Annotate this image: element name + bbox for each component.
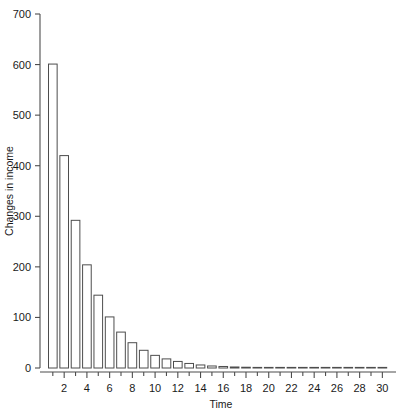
bar <box>71 220 80 368</box>
y-axis-tick-label: 600 <box>13 59 31 71</box>
x-axis-tick-label: 6 <box>107 382 113 394</box>
bar <box>94 295 103 368</box>
y-axis-tick-label: 400 <box>13 160 31 172</box>
y-axis-tick-label: 0 <box>25 362 31 374</box>
bar <box>117 332 126 368</box>
x-axis-tick-label: 22 <box>285 382 297 394</box>
bar <box>299 367 308 368</box>
bar <box>83 265 92 368</box>
bar <box>185 363 194 368</box>
bar <box>321 367 330 368</box>
chart-container: 0100200300400500600700Changes in income2… <box>0 0 407 420</box>
y-axis-tick-label: 300 <box>13 210 31 222</box>
bar <box>264 367 273 368</box>
x-axis-tick-label: 10 <box>149 382 161 394</box>
x-axis-tick-label: 18 <box>240 382 252 394</box>
x-axis-tick-label: 8 <box>129 382 135 394</box>
y-axis-tick-label: 200 <box>13 261 31 273</box>
bar <box>49 64 58 368</box>
bar-chart: 0100200300400500600700Changes in income2… <box>0 0 407 420</box>
bar <box>344 367 353 368</box>
y-axis-tick-label: 500 <box>13 109 31 121</box>
x-axis-tick-label: 28 <box>354 382 366 394</box>
y-axis-tick-label: 700 <box>13 8 31 20</box>
x-axis: 24681012141618202224262830Time <box>40 372 396 410</box>
bar <box>219 366 228 368</box>
bar <box>355 367 364 368</box>
y-axis: 0100200300400500600700Changes in income <box>3 8 40 374</box>
bar <box>253 367 262 368</box>
bar <box>276 367 285 368</box>
x-axis-tick-label: 16 <box>217 382 229 394</box>
bar <box>151 355 160 368</box>
bar <box>378 367 387 368</box>
bar <box>333 367 342 368</box>
bar <box>310 367 319 368</box>
x-axis-tick-label: 30 <box>376 382 388 394</box>
bar <box>128 343 137 368</box>
x-axis-tick-label: 2 <box>61 382 67 394</box>
bars-group <box>49 64 387 368</box>
bar <box>60 156 69 368</box>
bar <box>208 366 217 368</box>
bar <box>174 361 183 368</box>
x-axis-tick-label: 20 <box>263 382 275 394</box>
bar <box>242 367 251 368</box>
x-axis-title: Time <box>210 398 233 410</box>
bar <box>139 350 148 368</box>
x-axis-tick-label: 14 <box>194 382 206 394</box>
y-axis-title: Changes in income <box>3 146 15 236</box>
x-axis-tick-label: 26 <box>331 382 343 394</box>
x-axis-tick-label: 12 <box>172 382 184 394</box>
bar <box>230 367 239 368</box>
y-axis-tick-label: 100 <box>13 311 31 323</box>
bar <box>367 367 376 368</box>
bar <box>196 365 205 368</box>
bar <box>287 367 296 368</box>
x-axis-tick-label: 4 <box>84 382 90 394</box>
bar <box>162 359 171 368</box>
x-axis-tick-label: 24 <box>308 382 320 394</box>
bar <box>105 317 114 368</box>
